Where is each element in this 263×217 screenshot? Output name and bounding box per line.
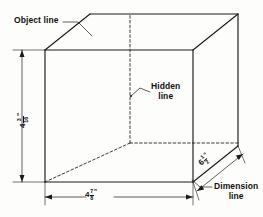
dimension-line-group	[20, 50, 244, 200]
dimension-height-denominator: 16	[23, 116, 29, 123]
dimension-width-unit: "	[94, 188, 97, 195]
leader-line-group	[63, 22, 212, 187]
arrowhead-width-right	[186, 195, 193, 200]
dimension-value-width: 478"	[85, 189, 97, 201]
arrowhead-width-left	[45, 195, 52, 200]
figure-canvas: Object line Hidden line Dimension line 4…	[0, 0, 263, 217]
leader-dot-hidden-line	[130, 95, 132, 97]
callout-dimension-line: Dimension line	[214, 182, 258, 201]
callout-hidden-line-row2: line	[151, 92, 180, 102]
dimension-height-whole: 4	[18, 124, 27, 128]
callout-object-line: Object line	[14, 16, 59, 26]
extension-line-depth-near	[193, 182, 199, 200]
object-line-top-right-receding-edge	[193, 14, 238, 50]
callout-hidden-line: Hidden line	[151, 82, 180, 101]
arrowhead-height-top	[20, 50, 25, 57]
dimension-height-fraction: 316	[17, 116, 29, 123]
dimension-width-denominator: 8	[90, 195, 94, 201]
object-line-front-face	[45, 50, 193, 182]
hidden-line-diagonal-to-front-bottom-left	[45, 143, 130, 182]
arrowhead-height-bottom	[20, 175, 25, 182]
dimension-value-height: 4316"	[17, 113, 29, 128]
leader-line-hidden-line	[131, 88, 150, 96]
dimension-height-unit: "	[16, 113, 23, 116]
callout-dimension-line-row2: line	[214, 192, 258, 202]
